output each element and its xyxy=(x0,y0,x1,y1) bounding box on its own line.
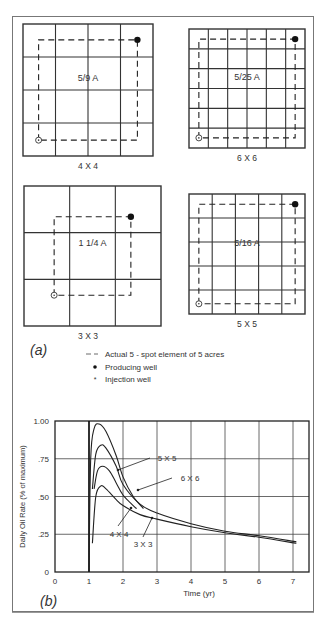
series-4x4 xyxy=(94,466,137,508)
y-tick-label: .75 xyxy=(38,455,50,464)
producing-well-icon xyxy=(292,201,298,207)
grid-border xyxy=(24,186,161,326)
x-tick-label: 7 xyxy=(291,577,296,586)
x-tick-label: 4 xyxy=(189,577,194,586)
grid-caption: 6 X 6 xyxy=(237,153,257,163)
grid-border xyxy=(189,194,305,314)
five-spot-element xyxy=(199,204,295,304)
y-tick-label: .25 xyxy=(38,530,50,539)
pattern-6x6: 5/25 A6 X 6 xyxy=(189,29,305,163)
series-5x5 xyxy=(89,424,143,572)
x-tick-label: 6 xyxy=(257,577,262,586)
grid-caption: 3 X 3 xyxy=(78,331,98,341)
producing-well-icon xyxy=(128,214,134,220)
area-label: 5/9 A xyxy=(78,73,99,83)
curve-annotation: 4 X 4 xyxy=(110,530,129,539)
y-axis-title: Daily Oil Rate (% of maximum) xyxy=(18,445,27,548)
area-label: 5/25 A xyxy=(234,72,260,82)
x-tick-label: 5 xyxy=(223,577,228,586)
curve-annotation: 6 X 6 xyxy=(181,474,200,483)
x-tick-label: 2 xyxy=(121,577,126,586)
grid-caption: 5 X 5 xyxy=(237,319,257,329)
legend-item: Producing well xyxy=(105,363,157,372)
grid-caption: 4 X 4 xyxy=(78,161,98,171)
annotation-leader xyxy=(138,478,172,490)
legend-item: Injection well xyxy=(105,375,151,384)
y-tick-label: 0 xyxy=(45,568,50,577)
panel-b-label: (b) xyxy=(40,593,57,609)
pattern-4x4: 5/9 A4 X 4 xyxy=(23,24,153,171)
pattern-3x3: 1 1/4 A3 X 3 xyxy=(24,186,161,341)
x-tick-label: 1 xyxy=(87,577,92,586)
x-tick-label: 3 xyxy=(155,577,160,586)
curve-annotation: 5 X 5 xyxy=(158,454,177,463)
curve-annotation: 3 X 3 xyxy=(134,540,153,549)
injection-symbol-icon: * xyxy=(94,376,97,383)
x-tick-label: 0 xyxy=(53,577,58,586)
annotation-leader xyxy=(118,508,131,526)
pattern-5x5: 5/16 A5 X 5 xyxy=(189,194,305,329)
area-label: 5/16 A xyxy=(234,238,260,248)
area-label: 1 1/4 A xyxy=(78,238,106,248)
filled-dot-icon xyxy=(93,365,97,369)
y-tick-label: 1.00 xyxy=(33,417,49,426)
y-tick-label: .50 xyxy=(38,493,50,502)
chart-plot xyxy=(55,421,309,572)
figure-canvas: 5/9 A4 X 45/25 A6 X 61 1/4 A3 X 35/16 A5… xyxy=(0,0,324,627)
five-spot-element xyxy=(54,217,131,295)
legend-item: Actual 5 - spot element of 5 acres xyxy=(105,350,224,359)
panel-a-label: (a) xyxy=(30,342,47,358)
producing-well-icon xyxy=(292,36,298,42)
x-axis-title: Time (yr) xyxy=(183,589,215,598)
producing-well-icon xyxy=(134,37,140,43)
